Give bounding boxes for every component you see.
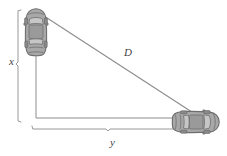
diagram-canvas: [0, 0, 227, 156]
hypotenuse-line: [44, 16, 198, 116]
triangle-legs: [36, 16, 200, 118]
label-y: y: [110, 137, 115, 148]
label-x: x: [9, 56, 14, 67]
figure-container: x y D: [0, 0, 227, 156]
car-bottom-right: [172, 110, 219, 135]
label-d: D: [124, 47, 132, 58]
car-top-left: [24, 9, 49, 56]
x-dimension-bracket: [16, 10, 21, 122]
